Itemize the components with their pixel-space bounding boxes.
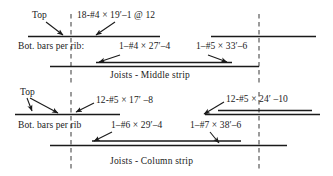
column-strip-top-bar-callout-left: 12-#5 × 17′ –8	[96, 95, 153, 106]
column-strip-bottom-left-leader	[94, 132, 112, 141]
middle-strip-bottom-bar-callout-left: 1–#4 × 27′–4	[119, 41, 170, 52]
middle-strip-caption: Joists - Middle strip	[110, 70, 190, 80]
middle-strip-top-callout-leader	[96, 22, 115, 35]
column-strip-bottom-bar-callout-right: 1–#7 × 38′–6	[190, 120, 241, 131]
column-strip-top-right-callout-leader	[204, 102, 224, 114]
middle-strip-bottom-right-leader	[208, 55, 227, 62]
figure-linework	[0, 0, 333, 176]
middle-strip-top-leader	[46, 22, 63, 35]
column-strip-caption: Joists - Column strip	[110, 156, 193, 166]
column-strip-bottom-bar-callout-left: 1–#6 × 29′–4	[111, 120, 162, 131]
column-strip-bottom-bars-label: Bot. bars per rib	[18, 120, 81, 131]
reinforcement-bar-schedule-figure: Top 18-#4 × 19′–1 @ 12 Bot. bars per rib…	[0, 0, 333, 176]
middle-strip-bottom-bars-label: Bot. bars per rib:	[18, 41, 84, 52]
column-strip-top-leader-b	[30, 98, 58, 113]
middle-strip-top-bar-callout: 18-#4 × 19′–1 @ 12	[77, 10, 155, 21]
middle-strip-top-label: Top	[32, 10, 47, 21]
column-strip-top-leader-a	[27, 98, 32, 111]
column-strip-top-label: Top	[20, 87, 35, 98]
column-strip-top-left-callout-leader	[76, 103, 94, 112]
middle-strip-bottom-left-leader	[99, 55, 120, 62]
column-strip-top-bar-callout-right: 12-#5 × 24′ –10	[226, 94, 288, 105]
middle-strip-bottom-bar-callout-right: 1–#5 × 33′–6	[196, 41, 247, 52]
